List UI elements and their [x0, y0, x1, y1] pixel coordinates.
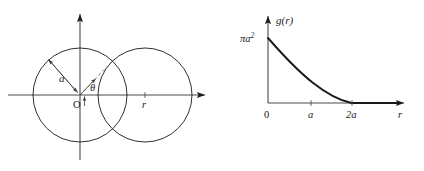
tick-label-0: 0 [264, 109, 269, 120]
x-axis-r-label: r [142, 99, 147, 110]
circles-svg: a θ O r [0, 0, 212, 171]
origin-label: O [73, 99, 81, 110]
plot-y-axis-label: g(r) [276, 14, 293, 27]
plot-svg: g(r) πa2 0 a 2a r [212, 0, 424, 171]
radius-label: a [59, 72, 65, 84]
two-overlapping-circles-diagram: a θ O r [0, 0, 212, 171]
plot-x-axis-label: r [398, 109, 403, 120]
y-max-label: πa2 [240, 31, 255, 44]
tick-label-a: a [308, 109, 313, 120]
y-max-base: πa [240, 33, 251, 44]
angle-theta-label: θ [90, 82, 95, 93]
g-of-r-curve [268, 38, 398, 103]
overlap-area-plot: g(r) πa2 0 a 2a r [212, 0, 424, 171]
tick-label-2a: 2a [346, 109, 357, 120]
figure-root: a θ O r [0, 0, 424, 171]
y-max-exponent: 2 [251, 31, 255, 40]
